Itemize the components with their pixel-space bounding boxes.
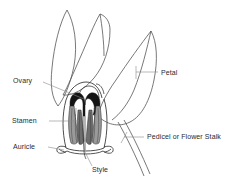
flower-diagram — [0, 0, 237, 184]
pedicel — [118, 120, 150, 176]
label-stamen: Stamen — [12, 117, 37, 125]
label-style: Style — [92, 166, 108, 174]
petal-left — [51, 10, 75, 106]
leader-auricle — [48, 147, 64, 150]
label-auricle: Auricle — [13, 143, 35, 151]
label-pedicel: Pedicel or Flower Stalk — [147, 133, 221, 141]
label-ovary: Ovary — [13, 77, 32, 85]
figure-canvas: Ovary Stamen Auricle Style Petal Pedicel… — [0, 0, 237, 184]
label-petal: Petal — [161, 69, 177, 77]
